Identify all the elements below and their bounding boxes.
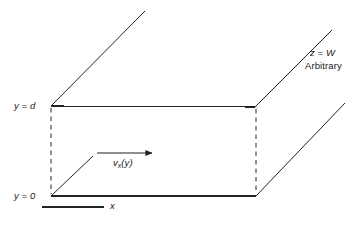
label-x-axis: x (110, 200, 115, 212)
label-y-equals-d: y = d (14, 100, 35, 112)
label-z-equals-w: z = W (310, 47, 335, 59)
velocity-argument: (y) (121, 157, 132, 168)
depth-line-bottom-left (51, 156, 93, 196)
label-y-0-text: y = 0 (14, 190, 35, 201)
flow-geometry-diagram: y = d y = 0 z = W Arbitrary vx(y) x (0, 0, 362, 225)
label-y-d-text: y = d (14, 100, 35, 111)
channel-top-edge (51, 106, 255, 107)
diagram-canvas (0, 0, 362, 225)
depth-line-bottom-right (256, 103, 345, 196)
velocity-subscript: x (118, 162, 122, 169)
depth-line-top-left (51, 11, 145, 106)
label-arbitrary-note: Arbitrary (305, 60, 342, 72)
label-y-equals-0: y = 0 (14, 190, 35, 202)
label-z-w-text: z = W (310, 47, 335, 58)
label-velocity-profile: vx(y) (113, 157, 133, 169)
label-x-text: x (110, 200, 115, 211)
label-arbitrary-text: Arbitrary (305, 60, 342, 71)
